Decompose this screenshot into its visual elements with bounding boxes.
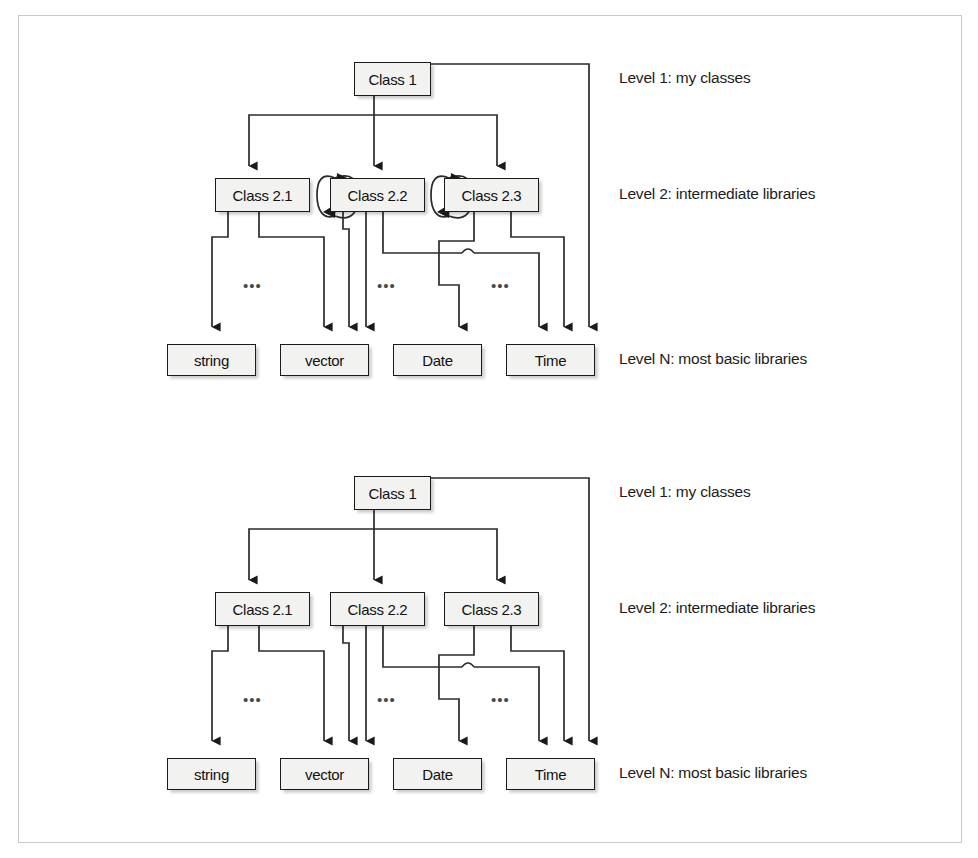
node-class-2-3[interactable]: Class 2.3 [444, 592, 539, 626]
node-vector[interactable]: vector [280, 344, 369, 376]
node-label: Class 1 [369, 485, 417, 502]
node-class-2-1[interactable]: Class 2.1 [215, 178, 310, 212]
edges-bottom [19, 430, 963, 844]
node-label: Class 1 [369, 71, 417, 88]
level-2-label: Level 2: intermediate libraries [619, 185, 815, 203]
node-vector[interactable]: vector [280, 758, 369, 790]
node-label: Time [535, 352, 567, 369]
node-label: string [194, 352, 229, 369]
level-n-label: Level N: most basic libraries [619, 350, 807, 368]
node-string[interactable]: string [167, 344, 256, 376]
ellipsis-right: ••• [491, 692, 510, 707]
node-label: Class 2.3 [462, 187, 522, 204]
node-label: vector [305, 766, 344, 783]
ellipsis-left: ••• [243, 692, 262, 707]
ellipsis-left: ••• [243, 278, 262, 293]
figure-frame: Class 1 Class 2.1 Class 2.2 Class 2.3 st… [18, 15, 962, 843]
level-1-label: Level 1: my classes [619, 483, 750, 501]
edges-top [19, 16, 963, 430]
level-2-label: Level 2: intermediate libraries [619, 599, 815, 617]
node-label: Date [422, 352, 453, 369]
node-time[interactable]: Time [506, 758, 595, 790]
node-string[interactable]: string [167, 758, 256, 790]
node-class-1[interactable]: Class 1 [354, 476, 431, 510]
node-label: Date [422, 766, 453, 783]
ellipsis-middle: ••• [377, 278, 396, 293]
level-n-label: Level N: most basic libraries [619, 764, 807, 782]
node-class-2-3[interactable]: Class 2.3 [444, 178, 539, 212]
diagram-panel-top: Class 1 Class 2.1 Class 2.2 Class 2.3 st… [19, 16, 963, 430]
node-label: Time [535, 766, 567, 783]
ellipsis-right: ••• [491, 278, 510, 293]
node-class-2-1[interactable]: Class 2.1 [215, 592, 310, 626]
node-class-2-2[interactable]: Class 2.2 [330, 178, 425, 212]
node-label: Class 2.3 [462, 601, 522, 618]
node-date[interactable]: Date [393, 344, 482, 376]
node-time[interactable]: Time [506, 344, 595, 376]
diagram-panel-bottom: Class 1 Class 2.1 Class 2.2 Class 2.3 st… [19, 430, 963, 844]
level-1-label: Level 1: my classes [619, 69, 750, 87]
node-label: Class 2.2 [348, 601, 408, 618]
node-label: Class 2.2 [348, 187, 408, 204]
node-label: string [194, 766, 229, 783]
node-label: Class 2.1 [233, 187, 293, 204]
ellipsis-middle: ••• [377, 692, 396, 707]
node-class-1[interactable]: Class 1 [354, 62, 431, 96]
node-class-2-2[interactable]: Class 2.2 [330, 592, 425, 626]
node-label: vector [305, 352, 344, 369]
node-date[interactable]: Date [393, 758, 482, 790]
node-label: Class 2.1 [233, 601, 293, 618]
